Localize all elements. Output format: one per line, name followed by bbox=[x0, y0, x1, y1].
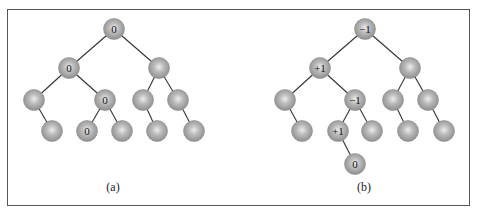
tree-node bbox=[184, 121, 205, 142]
tree-node bbox=[133, 90, 154, 111]
tree-node: 0 bbox=[104, 19, 125, 40]
node-circle bbox=[184, 121, 205, 142]
node-circle bbox=[24, 90, 45, 111]
tree-node: 0 bbox=[345, 154, 366, 175]
node-circle bbox=[383, 90, 404, 111]
balance-factor-label: +1 bbox=[314, 62, 326, 74]
balance-factor-label: −1 bbox=[359, 23, 371, 35]
node-circle bbox=[362, 121, 383, 142]
avl-tree-diagram: 0000−1+1−1+10 bbox=[0, 0, 479, 218]
tree-node bbox=[292, 121, 313, 142]
tree-node: −1 bbox=[355, 19, 376, 40]
node-circle bbox=[112, 121, 133, 142]
tree-nodes: 0000−1+1−1+10 bbox=[24, 19, 455, 175]
tree-node bbox=[149, 58, 170, 79]
balance-factor-label: 0 bbox=[352, 158, 358, 170]
node-circle bbox=[42, 121, 63, 142]
tree-node bbox=[147, 121, 168, 142]
node-circle bbox=[147, 121, 168, 142]
balance-factor-label: 0 bbox=[66, 62, 72, 74]
tree-node bbox=[24, 90, 45, 111]
tree-node bbox=[398, 121, 419, 142]
panel-caption-b: (b) bbox=[357, 180, 371, 195]
tree-node: −1 bbox=[345, 90, 366, 111]
node-circle bbox=[149, 58, 170, 79]
tree-node: 0 bbox=[77, 121, 98, 142]
node-circle bbox=[292, 121, 313, 142]
tree-node: +1 bbox=[310, 58, 331, 79]
tree-node bbox=[42, 121, 63, 142]
panel-caption-a: (a) bbox=[106, 180, 119, 195]
tree-node bbox=[434, 121, 455, 142]
tree-node bbox=[383, 90, 404, 111]
node-circle bbox=[400, 58, 421, 79]
balance-factor-label: 0 bbox=[102, 94, 108, 106]
node-circle bbox=[398, 121, 419, 142]
tree-node: 0 bbox=[59, 58, 80, 79]
balance-factor-label: 0 bbox=[84, 125, 90, 137]
balance-factor-label: 0 bbox=[111, 23, 117, 35]
balance-factor-label: +1 bbox=[332, 125, 344, 137]
node-circle bbox=[168, 90, 189, 111]
node-circle bbox=[418, 90, 439, 111]
tree-node bbox=[168, 90, 189, 111]
tree-node bbox=[112, 121, 133, 142]
node-circle bbox=[434, 121, 455, 142]
node-circle bbox=[275, 90, 296, 111]
tree-node: +1 bbox=[328, 121, 349, 142]
tree-node bbox=[362, 121, 383, 142]
balance-factor-label: −1 bbox=[349, 94, 361, 106]
tree-node: 0 bbox=[95, 90, 116, 111]
node-circle bbox=[133, 90, 154, 111]
tree-node bbox=[400, 58, 421, 79]
tree-node bbox=[275, 90, 296, 111]
tree-node bbox=[418, 90, 439, 111]
